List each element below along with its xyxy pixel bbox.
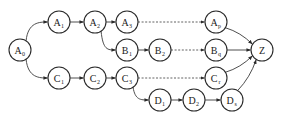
edge-cr-to-z [225, 56, 252, 72]
node-ds: Ds [221, 89, 243, 111]
node-cr: Cr [205, 67, 227, 89]
node-label: B [122, 45, 129, 56]
node-z: Z [251, 39, 273, 61]
node-c2: C2 [84, 67, 106, 89]
node-subscript: 0 [22, 51, 25, 57]
node-label: C [211, 73, 218, 84]
node-subscript: 2 [196, 101, 199, 107]
node-b2: B2 [149, 39, 171, 61]
node-c3: C3 [116, 67, 138, 89]
node-a0: A0 [9, 39, 31, 61]
node-label: Z [259, 45, 265, 56]
node-d1: D1 [149, 89, 171, 111]
edge-a0-to-c1 [26, 59, 47, 78]
node-label: C [122, 73, 129, 84]
node-subscript: 1 [61, 23, 64, 29]
node-subscript: q [218, 51, 221, 57]
node-label: B [211, 45, 218, 56]
node-subscript: 2 [97, 79, 100, 85]
node-label: D [226, 95, 233, 106]
node-label: D [154, 95, 161, 106]
node-ap: Ap [205, 11, 227, 33]
node-subscript: 2 [97, 23, 100, 29]
node-c1: C1 [48, 67, 70, 89]
node-label: B [155, 45, 162, 56]
node-a3: A3 [116, 11, 138, 33]
node-a1: A1 [48, 11, 70, 33]
node-subscript: 2 [162, 51, 165, 57]
node-d2: D2 [183, 89, 205, 111]
node-b1: B1 [116, 39, 138, 61]
node-subscript: p [218, 23, 221, 29]
edge-a2-to-b1 [101, 31, 115, 50]
node-label: C [54, 73, 61, 84]
node-subscript: r [219, 79, 221, 85]
node-subscript: 1 [162, 101, 165, 107]
edge-ap-to-z [225, 28, 252, 44]
edge-a0-to-a1 [26, 22, 47, 41]
node-label: D [188, 95, 195, 106]
node-label: C [90, 73, 97, 84]
node-a2: A2 [84, 11, 106, 33]
node-bq: Bq [205, 39, 227, 61]
edge-c3-to-d1 [133, 87, 148, 100]
node-subscript: 1 [129, 51, 132, 57]
edge-ds-to-z [238, 60, 256, 91]
flow-diagram: A0A1A2A3ApB1B2BqZC1C2C3CrD1D2Ds [0, 0, 281, 120]
node-subscript: 1 [61, 79, 64, 85]
node-subscript: 3 [129, 23, 132, 29]
node-subscript: 3 [129, 79, 132, 85]
nodes-layer: A0A1A2A3ApB1B2BqZC1C2C3CrD1D2Ds [9, 11, 273, 111]
